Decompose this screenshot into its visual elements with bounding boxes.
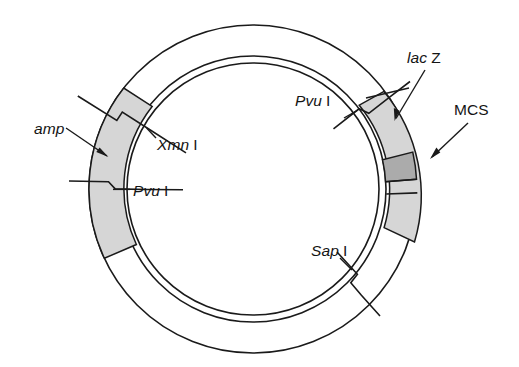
label-lac-z: lacZ bbox=[407, 49, 441, 66]
arrow-mcs-icon bbox=[430, 148, 440, 159]
leader-sap-i bbox=[340, 258, 352, 270]
mcs-lower-band-edge bbox=[386, 193, 417, 194]
label-amp: amp bbox=[34, 120, 65, 137]
label-pvu-i-right: PvuI bbox=[295, 92, 330, 109]
leader-lac-z bbox=[396, 70, 425, 119]
plasmid-diagram: amp XmnI PvuI PvuI lacZ MCS SapI bbox=[0, 0, 519, 367]
plasmid-map-figure: amp XmnI PvuI PvuI lacZ MCS SapI bbox=[0, 0, 519, 367]
label-mcs: MCS bbox=[454, 101, 489, 118]
label-xmn-i: XmnI bbox=[156, 136, 198, 153]
label-pvu-i-left: PvuI bbox=[133, 182, 168, 199]
